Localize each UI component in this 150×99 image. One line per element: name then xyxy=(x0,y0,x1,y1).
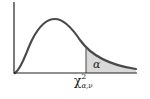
chi-subscript: α,ν xyxy=(81,82,92,90)
chi-superscript: 2 xyxy=(81,72,86,81)
alpha-area-label: α xyxy=(93,58,100,71)
critical-value-label: χ2α,ν xyxy=(74,74,98,88)
density-curve xyxy=(15,19,136,73)
